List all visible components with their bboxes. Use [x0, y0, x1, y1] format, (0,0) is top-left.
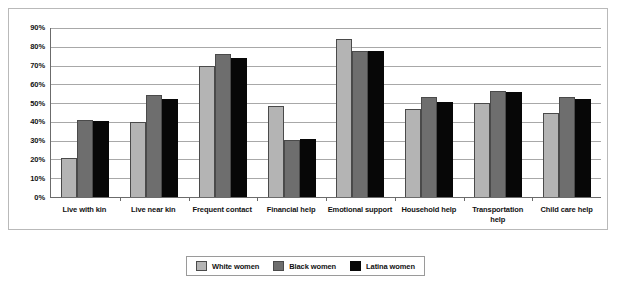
bar-group — [120, 28, 189, 197]
bar-latina-women — [162, 99, 178, 197]
x-axis-label: Financial help — [257, 205, 326, 235]
legend-label: White women — [212, 262, 259, 271]
bar-white-women — [268, 106, 284, 197]
bar-latina-women — [368, 51, 384, 197]
legend-swatch-icon — [273, 261, 284, 271]
x-axis-label: Child care help — [532, 205, 601, 235]
x-axis-label: Live near kin — [119, 205, 188, 235]
legend-swatch-icon — [196, 261, 207, 271]
bar-white-women — [474, 103, 490, 197]
bar-latina-women — [300, 139, 316, 197]
x-axis-label: Live with kin — [50, 205, 119, 235]
bar-black-women — [284, 140, 300, 197]
y-tick-label: 60% — [9, 81, 45, 89]
bar-group — [51, 28, 120, 197]
bar-latina-women — [506, 92, 522, 197]
plot-area — [50, 28, 601, 198]
chart-legend: White womenBlack womenLatina women — [186, 256, 425, 276]
bar-white-women — [61, 158, 77, 197]
x-axis-label: Frequent contact — [188, 205, 257, 235]
bar-group — [257, 28, 326, 197]
x-axis-tick — [464, 197, 465, 201]
bar-latina-women — [231, 58, 247, 197]
y-tick-label: 20% — [9, 156, 45, 164]
x-axis-tick — [532, 197, 533, 201]
legend-swatch-icon — [350, 261, 361, 271]
x-axis-label: Emotional support — [326, 205, 395, 235]
y-tick-label: 80% — [9, 43, 45, 51]
legend-entry: White women — [196, 261, 259, 271]
bar-latina-women — [93, 121, 109, 197]
legend-entry: Black women — [273, 261, 336, 271]
bar-groups — [51, 28, 601, 197]
legend-entry: Latina women — [350, 261, 415, 271]
bar-black-women — [490, 91, 506, 197]
y-tick-label: 70% — [9, 62, 45, 70]
chart-plot-frame: 0%10%20%30%40%50%60%70%80%90% Live with … — [8, 8, 608, 230]
y-axis: 0%10%20%30%40%50%60%70%80%90% — [9, 28, 45, 198]
bar-black-women — [77, 120, 93, 197]
x-axis-label: Household help — [394, 205, 463, 235]
y-tick-label: 30% — [9, 137, 45, 145]
bar-black-women — [146, 95, 162, 197]
y-tick-label: 90% — [9, 24, 45, 32]
bar-white-women — [543, 113, 559, 198]
x-axis-tick — [326, 197, 327, 201]
bar-group — [326, 28, 395, 197]
x-axis: Live with kinLive near kinFrequent conta… — [50, 205, 601, 235]
legend-label: Latina women — [366, 262, 415, 271]
bar-group — [464, 28, 533, 197]
y-tick-label: 40% — [9, 118, 45, 126]
bar-white-women — [199, 66, 215, 197]
bar-chart-figure: 0%10%20%30%40%50%60%70%80%90% Live with … — [0, 0, 617, 299]
y-tick-label: 10% — [9, 175, 45, 183]
bar-group — [395, 28, 464, 197]
x-axis-tick — [189, 197, 190, 201]
bar-black-women — [215, 54, 231, 197]
y-tick-label: 0% — [9, 194, 45, 202]
x-axis-tick — [257, 197, 258, 201]
x-axis-tick — [120, 197, 121, 201]
bar-latina-women — [575, 99, 591, 197]
bar-white-women — [405, 109, 421, 197]
x-axis-tick — [395, 197, 396, 201]
bar-latina-women — [437, 102, 453, 197]
bar-group — [532, 28, 601, 197]
legend-label: Black women — [289, 262, 336, 271]
bar-white-women — [336, 39, 352, 197]
y-tick-label: 50% — [9, 100, 45, 108]
bar-black-women — [559, 97, 575, 197]
bar-group — [189, 28, 258, 197]
bar-black-women — [421, 97, 437, 197]
x-axis-label: Transportation help — [463, 205, 532, 235]
bar-black-women — [352, 51, 368, 197]
bar-white-women — [130, 122, 146, 197]
